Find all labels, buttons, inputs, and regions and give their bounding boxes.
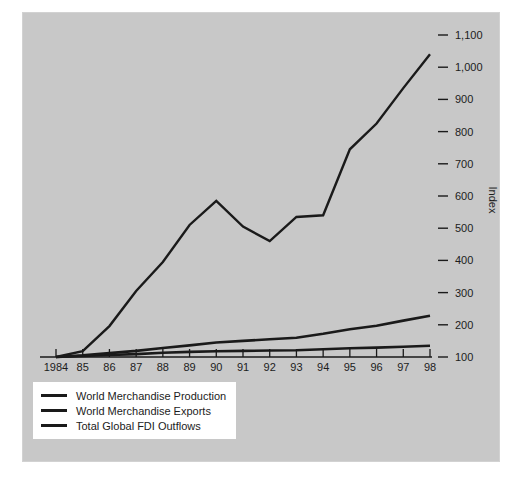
legend-line-swatch-icon: [41, 394, 67, 397]
legend-line-swatch-icon: [41, 409, 67, 412]
x-tick-label: 96: [370, 361, 382, 373]
y-tick-label: 500: [455, 222, 473, 234]
legend-item: Total Global FDI Outflows: [41, 418, 226, 433]
chart-legend: World Merchandise Production World Merch…: [33, 382, 236, 439]
y-tick-label: 1,000: [455, 61, 483, 73]
x-tick-label: 93: [290, 361, 302, 373]
x-tick-label: 98: [424, 361, 436, 373]
legend-item-label: World Merchandise Exports: [76, 405, 211, 417]
y-axis-title: Index: [487, 187, 499, 214]
x-tick-label: 91: [237, 361, 249, 373]
x-tick-label: 87: [130, 361, 142, 373]
x-tick-label: 85: [77, 361, 89, 373]
legend-item: World Merchandise Exports: [41, 403, 226, 418]
chart-figure: 1002003004005006007008009001,0001,100 19…: [0, 0, 522, 481]
y-tick-label: 300: [455, 287, 473, 299]
legend-item-label: World Merchandise Production: [76, 390, 226, 402]
x-tick-label: 86: [103, 361, 115, 373]
legend-line-swatch-icon: [41, 424, 67, 427]
x-tick-label: 92: [264, 361, 276, 373]
x-tick-label: 95: [344, 361, 356, 373]
x-tick-label: 1984: [44, 361, 68, 373]
x-tick-label: 97: [397, 361, 409, 373]
y-tick-label: 900: [455, 93, 473, 105]
chart-series-lines: [56, 54, 430, 357]
x-tick-label: 90: [210, 361, 222, 373]
y-tick-label: 200: [455, 319, 473, 331]
y-tick-label: 700: [455, 158, 473, 170]
y-tick-label: 800: [455, 126, 473, 138]
x-tick-label: 89: [183, 361, 195, 373]
legend-item: World Merchandise Production: [41, 388, 226, 403]
legend-item-label: Total Global FDI Outflows: [76, 420, 201, 432]
x-tick-label: 88: [157, 361, 169, 373]
series-line-2: [56, 54, 430, 357]
y-tick-label: 100: [455, 351, 473, 363]
x-tick-label: 94: [317, 361, 329, 373]
y-axis-ticks: 1002003004005006007008009001,0001,100: [438, 29, 483, 363]
y-tick-label: 600: [455, 190, 473, 202]
y-tick-label: 1,100: [455, 29, 483, 41]
y-tick-label: 400: [455, 254, 473, 266]
